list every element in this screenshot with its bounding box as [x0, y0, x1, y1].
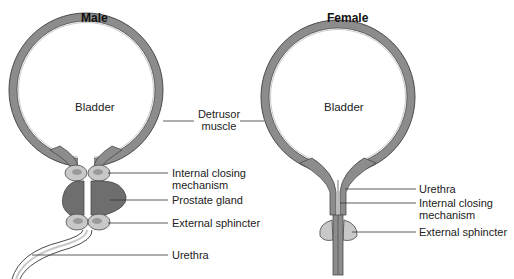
male-internal-line2: mechanism	[172, 179, 246, 191]
detrusor-line2: muscle	[197, 120, 241, 132]
male-title: Male	[81, 11, 108, 25]
male-external-sphincter-label: External sphincter	[172, 217, 260, 229]
male-internal-closing-label: Internal closing mechanism	[172, 167, 246, 191]
female-bladder-label: Bladder	[324, 101, 364, 113]
female-urethra-label: Urethra	[419, 183, 456, 195]
female-internal-closing-label: Internal closing mechanism	[419, 197, 493, 221]
female-external-sphincter-label: External sphincter	[419, 226, 507, 238]
prostate-label: Prostate gland	[172, 194, 243, 206]
female-internal-line1: Internal closing	[419, 197, 493, 209]
female-bladder	[261, 20, 415, 275]
female-internal-line2: mechanism	[419, 209, 493, 221]
male-bladder	[9, 0, 165, 279]
detrusor-label: Detrusor muscle	[197, 108, 241, 132]
male-internal-line1: Internal closing	[172, 167, 246, 179]
detrusor-line1: Detrusor	[197, 108, 241, 120]
female-title: Female	[327, 11, 368, 25]
male-bladder-label: Bladder	[75, 101, 115, 113]
male-urethra-label: Urethra	[172, 249, 209, 261]
